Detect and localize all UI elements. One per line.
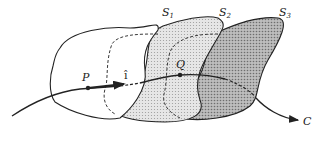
point-q-label: Q	[176, 58, 185, 71]
point-p-dot	[86, 86, 90, 90]
surface-s1-label: S1	[162, 6, 174, 20]
curve-c-solid-right	[256, 98, 298, 120]
point-q-dot	[178, 73, 182, 77]
surfaces-curve-diagram: P Q î C S1 S2 S3	[0, 0, 321, 142]
surface-s2-label: S2	[219, 6, 232, 20]
curve-c-label: C	[303, 115, 312, 128]
point-p-label: P	[81, 71, 90, 84]
tangent-vector-label: î	[124, 69, 128, 82]
surface-s3-label: S3	[279, 6, 292, 20]
